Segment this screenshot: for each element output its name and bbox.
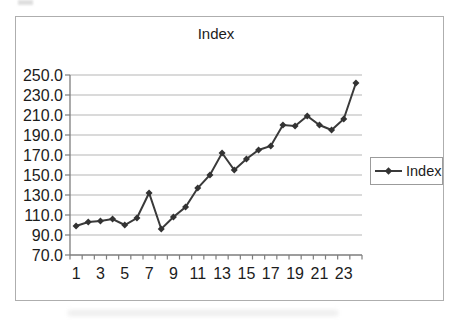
y-tick-label: 170.0 <box>23 147 63 164</box>
x-tick-label: 15 <box>238 265 256 282</box>
x-tick-label: 1 <box>72 265 81 282</box>
y-tick-label: 130.0 <box>23 187 63 204</box>
x-tick-label: 19 <box>286 265 304 282</box>
line-chart: Index 70.090.0110.0130.0150.0170.0190.02… <box>0 0 459 320</box>
x-tick-label: 9 <box>169 265 178 282</box>
x-tick-label: 11 <box>189 265 206 282</box>
y-tick-label: 250.0 <box>23 67 63 84</box>
x-tick-label: 7 <box>145 265 154 282</box>
x-tick-label: 21 <box>311 265 329 282</box>
x-tick-label: 3 <box>96 265 105 282</box>
x-tick-label: 23 <box>335 265 353 282</box>
y-tick-label: 150.0 <box>23 167 63 184</box>
y-tick-label: 230.0 <box>23 87 63 104</box>
chart-title: Index <box>198 25 235 42</box>
y-tick-label: 110.0 <box>24 207 63 224</box>
x-tick-label: 5 <box>120 265 129 282</box>
scanned-figure: Index 70.090.0110.0130.0150.0170.0190.02… <box>0 0 459 320</box>
y-tick-label: 210.0 <box>23 107 63 124</box>
legend: Index <box>371 158 443 185</box>
x-tick-label: 13 <box>213 265 231 282</box>
y-tick-label: 190.0 <box>23 127 63 144</box>
legend-label: Index <box>406 163 442 179</box>
y-tick-label: 90.0 <box>32 227 63 244</box>
y-tick-label: 70.0 <box>32 247 63 264</box>
x-tick-label: 17 <box>262 265 280 282</box>
